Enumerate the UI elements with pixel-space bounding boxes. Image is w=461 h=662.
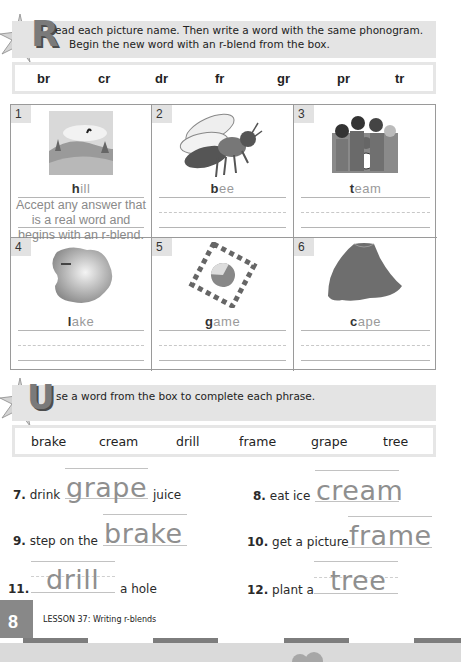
phrase-12: 12. plant a [247,583,314,597]
phrase-11-after: a hole [120,582,157,596]
picture-cell-1: 1 hill Accept any answer that is a real … [11,105,152,238]
drop-letter-u: U [27,380,55,414]
handwriting-line-top [315,470,399,471]
writing-line-top [301,197,430,198]
item-number: 5 [152,238,172,256]
phrase-9: 9. step on the [13,534,98,548]
answer-8[interactable]: cream [316,477,403,504]
word-box: brake cream drill frame grape tree [12,425,436,457]
writing-line-mid [159,345,286,346]
writing-line-mid [159,212,286,213]
phrase-7: 7. drink [13,488,60,502]
answer-11[interactable]: drill [46,566,99,593]
item-number: 3 [294,105,314,123]
instruction-line-1: ead each picture name. Then write a word… [55,24,423,37]
writing-line-mid [18,345,144,346]
writing-line-top [159,330,286,331]
picture-cell-4: 4 lake [11,238,152,371]
answer-9[interactable]: brake [104,520,183,547]
blend-br: br [37,71,50,86]
writing-line-bottom [18,227,144,228]
writing-line-mid [301,345,430,346]
picture-word: team [294,181,437,196]
bottom-band [0,643,461,662]
hill-icon [49,111,113,175]
item-number: 4 [11,238,31,256]
word-drill: drill [176,434,200,449]
phrase-11: 11. [8,582,29,596]
blend-gr: gr [277,71,290,86]
team-icon [332,113,398,173]
blend-box: br cr dr fr gr pr tr [12,62,436,94]
lesson-title: LESSON 37: Writing r-blends [43,615,156,624]
picture-cell-3: 3 team [294,105,437,238]
answer-10[interactable]: frame [349,522,432,549]
writing-line-bottom [301,227,430,228]
picture-word: lake [11,314,151,329]
handwriting-line-top [65,468,148,469]
phrase-8: 8. eat ice [253,489,310,503]
page-number: 8 [8,612,18,633]
word-frame: frame [239,434,276,449]
blend-cr: cr [98,71,110,86]
instruction-line-2: Begin the new word with an r-blend from … [69,38,330,51]
phrase-10: 10. get a picture [247,535,349,549]
blend-pr: pr [337,71,350,86]
picture-word: cape [294,314,437,329]
word-tree: tree [383,434,408,449]
writing-line-bottom [159,227,286,228]
phrase-7-after: juice [153,488,181,502]
picture-word: hill [11,181,151,196]
writing-line-bottom [301,360,430,361]
writing-line-bottom [18,360,144,361]
handwriting-line-top [31,561,115,562]
writing-line-mid [301,212,430,213]
item-number: 2 [152,105,172,123]
lake-icon [47,244,117,306]
picture-cell-2: 2 bee [152,105,294,238]
item-number: 6 [294,238,314,256]
handwriting-line-top [103,514,187,515]
writing-line-top [159,197,286,198]
cape-icon [324,242,404,306]
writing-line-top [301,330,430,331]
writing-line-top [18,330,144,331]
handwriting-line-top [314,561,398,562]
word-brake: brake [31,434,66,449]
word-cream: cream [99,434,138,449]
blend-dr: dr [155,71,168,86]
word-grape: grape [311,434,347,449]
writing-line-bottom [159,360,286,361]
blend-tr: tr [395,71,404,86]
picture-grid: 1 hill Accept any answer that is a real … [10,104,436,370]
answer-7[interactable]: grape [66,474,147,501]
item-number: 1 [11,105,31,123]
instruction-u: se a word from the box to complete each … [56,390,315,403]
game-icon [188,242,258,308]
answer-12[interactable]: tree [330,567,386,594]
picture-word: game [152,314,293,329]
picture-cell-6: 6 cape [294,238,437,371]
picture-cell-5: 5 game [152,238,294,371]
bee-icon [172,107,272,179]
blend-fr: fr [215,71,224,86]
answer-note: Accept any answer that is a real word an… [15,198,147,243]
handwriting-line-top [348,516,432,517]
picture-word: bee [152,181,293,196]
